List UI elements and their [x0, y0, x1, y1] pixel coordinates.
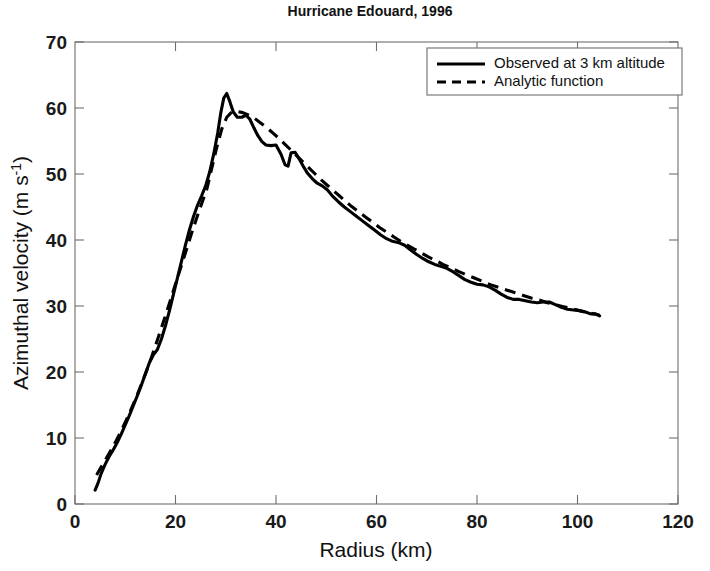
- legend-label-analytic: Analytic function: [494, 72, 603, 89]
- y-tick-label-10: 10: [46, 428, 67, 449]
- y-axis-title-exponent: -1: [8, 163, 24, 176]
- x-tick-label-120: 120: [662, 511, 694, 532]
- y-axis-title-suffix: ): [9, 156, 32, 163]
- series-analytic-function: [97, 111, 600, 475]
- y-tick-label-0: 0: [56, 494, 67, 515]
- chart-canvas: Hurricane Edouard, 1996 0 10 20: [0, 0, 710, 571]
- plot-frame: [75, 42, 678, 504]
- x-tick-label-100: 100: [562, 511, 594, 532]
- legend[interactable]: Observed at 3 km altitude Analytic funct…: [427, 48, 682, 95]
- y-axis-title-group: Azimuthal velocity (m s-1): [8, 156, 32, 390]
- legend-label-observed: Observed at 3 km altitude: [494, 54, 665, 71]
- y-tick-label-70: 70: [46, 32, 67, 53]
- y-tick-label-30: 30: [46, 296, 67, 317]
- y-tick-label-60: 60: [46, 98, 67, 119]
- series-observed-3km: [95, 93, 600, 490]
- chart-figure: Hurricane Edouard, 1996 0 10 20: [0, 0, 710, 571]
- x-tick-label-80: 80: [466, 511, 487, 532]
- data-series-group: [95, 93, 600, 490]
- y-tick-label-20: 20: [46, 362, 67, 383]
- y-tick-label-40: 40: [46, 230, 67, 251]
- x-axis-ticks: [75, 42, 678, 504]
- chart-title: Hurricane Edouard, 1996: [288, 3, 453, 19]
- x-tick-label-60: 60: [366, 511, 387, 532]
- x-axis-tick-labels: 0 20 40 60 80 100 120: [70, 511, 694, 532]
- y-axis-title-main: Azimuthal velocity (m s: [9, 175, 32, 390]
- x-tick-label-20: 20: [165, 511, 186, 532]
- y-axis-title: Azimuthal velocity (m s-1): [8, 156, 32, 390]
- x-tick-label-40: 40: [265, 511, 286, 532]
- x-axis-title: Radius (km): [319, 538, 432, 561]
- x-tick-label-0: 0: [70, 511, 81, 532]
- y-tick-label-50: 50: [46, 164, 67, 185]
- y-axis-tick-labels: 0 10 20 30 40 50 60 70: [46, 32, 67, 515]
- y-axis-ticks: [75, 42, 678, 504]
